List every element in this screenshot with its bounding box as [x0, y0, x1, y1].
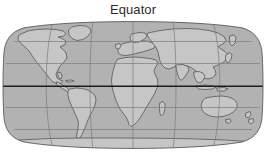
map-svg	[0, 0, 266, 158]
land-caribbean	[66, 80, 74, 82]
world-map-figure	[0, 0, 266, 158]
world-map-screenshot: Equator	[0, 0, 266, 158]
